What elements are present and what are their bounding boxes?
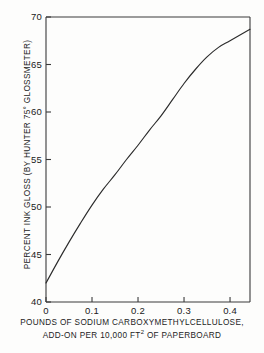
x-tick-label: 0.3 — [171, 305, 197, 316]
x-axis-title-line-2: ADD-ON PER 10,000 FT2 OF PAPERBOARD — [0, 329, 264, 342]
data-series-line — [46, 29, 250, 283]
x-axis-title: POUNDS OF SODIUM CARBOXYMETHYLCELLULOSE,… — [0, 316, 264, 342]
x-axis-title-line-2-post: OF PAPERBOARD — [144, 331, 221, 340]
x-axis-title-line-2-pre: ADD-ON PER 10,000 FT — [43, 331, 141, 340]
axes-frame — [46, 17, 250, 302]
x-tick-marks — [46, 297, 230, 302]
x-tick-label: 0.4 — [217, 305, 243, 316]
x-tick-label: 0 — [33, 305, 59, 316]
x-axis-title-line-1: POUNDS OF SODIUM CARBOXYMETHYLCELLULOSE, — [20, 318, 244, 327]
y-tick-label: 70 — [20, 11, 42, 22]
x-tick-label: 0.2 — [125, 305, 151, 316]
y-tick-marks — [46, 17, 51, 302]
figure-container: 40455055606570 00.10.20.30.4 PERCENT INK… — [0, 0, 264, 353]
y-axis-title: PERCENT INK GLOSS (BY HUNTER 75° GLOSSME… — [23, 40, 32, 270]
x-tick-label: 0.1 — [79, 305, 105, 316]
